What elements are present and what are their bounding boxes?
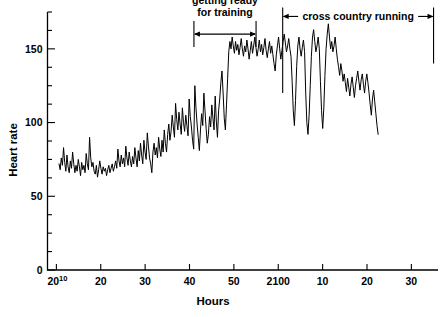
getting-ready-arrow (194, 31, 256, 36)
annotations-layer: getting readyfor trainingcross country r… (192, 0, 434, 93)
x-tick-label: 2010 (47, 274, 67, 287)
x-tick-label: 50 (228, 275, 240, 287)
y-axis-title: Heart rate (7, 123, 19, 177)
y-tick-label: 0 (37, 264, 43, 276)
y-tick-label: 50 (31, 190, 43, 202)
annotation-cross-country-running: cross country running (283, 10, 434, 22)
annotation-label: cross country running (302, 10, 413, 22)
chart-figure: 050100150 2010203040502100102030 getting… (0, 0, 446, 317)
x-tick-label: 10 (317, 275, 329, 287)
annotation-getting-ready: getting readyfor training (192, 0, 258, 47)
x-axis-title: Hours (196, 295, 229, 307)
heart-rate-line-chart: 050100150 2010203040502100102030 getting… (0, 0, 446, 317)
x-tick-label: 40 (184, 275, 196, 287)
tick-marks-layer (48, 12, 412, 270)
x-tick-label: 20 (95, 275, 107, 287)
y-tick-label: 100 (25, 116, 43, 128)
y-tick-labels: 050100150 (25, 43, 43, 276)
x-tick-label: 2100 (267, 275, 291, 287)
x-tick-label: 30 (406, 275, 418, 287)
y-tick-label: 150 (25, 43, 43, 55)
annotation-label-line2: for training (197, 6, 252, 18)
heart-rate-trace (59, 24, 378, 177)
x-tick-labels: 2010203040502100102030 (47, 274, 417, 287)
data-trace-layer (59, 24, 378, 177)
x-tick-label: 30 (139, 275, 151, 287)
x-tick-label: 20 (361, 275, 373, 287)
